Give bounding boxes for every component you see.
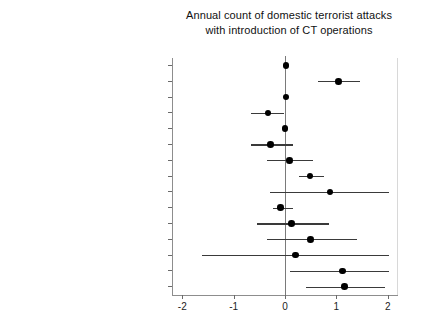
- x-axis-tick-label: 0: [270, 301, 300, 312]
- y-axis-tick: [168, 65, 172, 66]
- point-estimate-marker: [307, 173, 314, 180]
- point-estimate-marker: [277, 204, 284, 211]
- x-axis-tick-label: -1: [219, 301, 249, 312]
- coefficient-row: Total area: [172, 200, 398, 216]
- x-axis-tick: [234, 295, 235, 299]
- point-estimate-marker: [282, 125, 289, 132]
- point-estimate-marker: [341, 283, 348, 290]
- x-axis-tick: [388, 295, 389, 299]
- chart-title-line-1: Annual count of domestic terrorist attac…: [150, 8, 428, 23]
- y-axis-tick: [168, 81, 172, 82]
- point-estimate-marker: [335, 78, 342, 85]
- coefficient-row: South Asia: [172, 263, 398, 279]
- coefficient-row: MENA: [172, 216, 398, 232]
- point-estimate-marker: [286, 157, 293, 164]
- x-axis-tick-label: 1: [321, 301, 351, 312]
- coefficient-row: Central Asia: [172, 248, 398, 264]
- point-estimate-marker: [339, 268, 346, 275]
- x-axis-tick: [285, 295, 286, 299]
- coefficient-plot-figure: Annual count of domestic terrorist attac…: [0, 0, 430, 330]
- coefficient-row: Total population: [172, 153, 398, 169]
- coefficient-row: GDP: [172, 137, 398, 153]
- y-axis-tick: [168, 176, 172, 177]
- x-axis-tick: [182, 295, 183, 299]
- y-axis-tick: [168, 144, 172, 145]
- coefficient-row: Polity IV score: [172, 121, 398, 137]
- y-axis-tick: [168, 223, 172, 224]
- coefficient-row: Domestic terrorism (lagged): [172, 58, 398, 74]
- point-estimate-marker: [327, 189, 334, 196]
- x-axis-tick-label: 2: [373, 301, 403, 312]
- x-axis-tick-label: -2: [167, 301, 197, 312]
- coefficient-row: Southeast Asia: [172, 279, 398, 295]
- point-estimate-marker: [283, 94, 290, 101]
- point-estimate-marker: [307, 236, 314, 243]
- y-axis-tick: [168, 112, 172, 113]
- coefficient-row: U.S. military assistance: [172, 90, 398, 106]
- point-estimate-marker: [267, 141, 274, 148]
- y-axis-tick: [168, 255, 172, 256]
- y-axis-tick: [168, 270, 172, 271]
- plot-area: Domestic terrorism (lagged)Introduction …: [172, 58, 398, 295]
- point-estimate-marker: [292, 252, 299, 259]
- coefficient-row: Military expenditures: [172, 169, 398, 185]
- coefficient-row: Introduction of CT operations (lagged): [172, 74, 398, 90]
- point-estimate-marker: [288, 220, 295, 227]
- point-estimate-marker: [283, 62, 290, 69]
- y-axis-tick: [168, 160, 172, 161]
- y-axis-tick: [168, 239, 172, 240]
- point-estimate-marker: [265, 110, 272, 117]
- y-axis-tick: [168, 286, 172, 287]
- y-axis-tick: [168, 191, 172, 192]
- chart-title: Annual count of domestic terrorist attac…: [150, 8, 428, 38]
- y-axis-tick: [168, 207, 172, 208]
- x-axis-tick: [336, 295, 337, 299]
- y-axis-tick: [168, 128, 172, 129]
- coefficient-row: Africa: [172, 232, 398, 248]
- y-axis-tick: [168, 97, 172, 98]
- coefficient-row: Excluded population (lagged): [172, 184, 398, 200]
- chart-title-line-2: with introduction of CT operations: [150, 23, 428, 38]
- coefficient-row: War on Terror year: [172, 105, 398, 121]
